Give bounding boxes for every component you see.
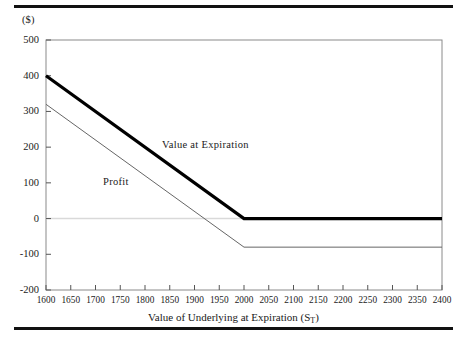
plot-area: 5004003002001000-100-200 160016501700175…: [0, 0, 467, 339]
x-axis-title: Value of Underlying at Expiration (ST): [0, 311, 467, 325]
chart-svg: [0, 0, 467, 339]
annotation-profit: Profit: [103, 176, 129, 187]
y-tick-label-0: 500: [5, 35, 39, 46]
annotation-value-at-expiration: Value at Expiration: [162, 139, 249, 150]
y-tick-label-3: 200: [5, 142, 39, 153]
x-axis-title-text: Value of Underlying at Expiration (S: [148, 311, 310, 323]
y-tick-label-2: 300: [5, 106, 39, 117]
y-tick-label-4: 100: [5, 178, 39, 189]
y-tick-label-6: -100: [5, 249, 39, 260]
x-tick-label-16: 2400: [422, 296, 462, 305]
y-tick-label-5: 0: [5, 214, 39, 225]
y-tick-label-7: -200: [5, 285, 39, 296]
y-tick-label-1: 400: [5, 71, 39, 82]
x-axis-title-suffix: ): [315, 311, 319, 323]
figure-container: ($) 5004003002001000-100-200 16001650170…: [0, 0, 467, 339]
plot-frame: [46, 40, 442, 290]
